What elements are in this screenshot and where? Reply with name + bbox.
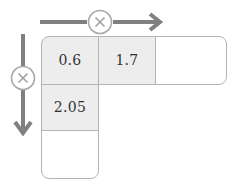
grid-cell-value: 2.05 (54, 100, 86, 114)
grid-cell-value: 1.7 (115, 53, 138, 67)
vertical-multiply-arrow (8, 32, 40, 140)
grid-cell-row2-col1[interactable]: 2.05 (41, 84, 99, 131)
grid-cell-row1-col1[interactable]: 0.6 (41, 36, 99, 85)
grid-cell-value: 0.6 (58, 53, 81, 67)
horizontal-multiply-arrow (38, 8, 170, 36)
vertical-circled-times-icon (12, 67, 35, 90)
figure-canvas: 0.6 1.7 2.05 (0, 0, 227, 190)
grid-cell-row1-col3-empty[interactable] (155, 36, 227, 85)
grid-cell-row3-col1-empty[interactable] (41, 130, 99, 179)
grid-cell-row1-col2[interactable]: 1.7 (98, 36, 156, 85)
horizontal-circled-times-icon (89, 11, 112, 34)
